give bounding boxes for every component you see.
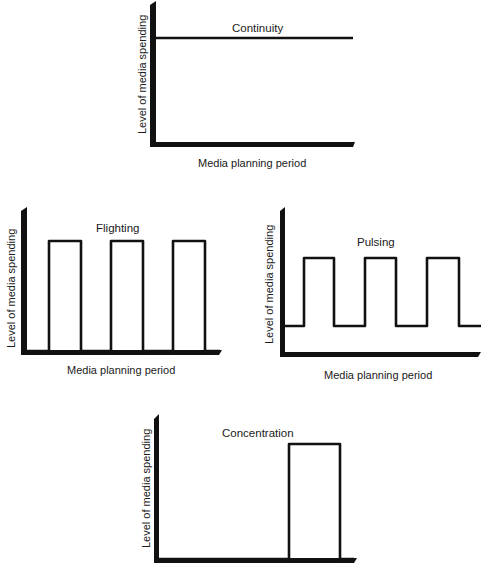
flighting-y-axis <box>21 207 27 354</box>
flighting-title: Flighting <box>96 222 139 234</box>
continuity-x-label: Media planning period <box>198 157 306 169</box>
concentration-y-axis <box>154 414 159 563</box>
flighting-x-axis <box>21 350 222 355</box>
flighting-y-label: Level of media spending <box>5 229 17 348</box>
flighting-x-label: Media planning period <box>67 364 175 376</box>
continuity-y-label: Level of media spending <box>136 15 148 134</box>
continuity-title: Continuity <box>232 22 283 34</box>
flighting-spending-line <box>27 241 220 351</box>
media-scheduling-diagrams <box>0 0 491 575</box>
pulsing-title: Pulsing <box>357 236 395 248</box>
pulsing-spending-line <box>285 258 481 326</box>
pulsing-x-axis <box>280 352 481 357</box>
pulsing-chart <box>280 207 481 357</box>
concentration-spending-line <box>159 444 354 559</box>
concentration-title: Concentration <box>222 427 294 439</box>
pulsing-y-label: Level of media spending <box>263 225 275 344</box>
pulsing-y-axis <box>280 207 285 357</box>
continuity-y-axis <box>150 1 156 146</box>
pulsing-x-label: Media planning period <box>324 369 432 381</box>
continuity-x-axis <box>150 142 355 147</box>
concentration-y-label: Level of media spending <box>140 429 152 548</box>
